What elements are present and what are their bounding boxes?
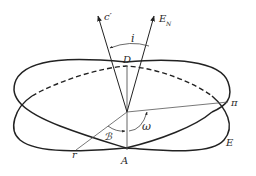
orbital-diagram: c′ E N i D A π ω ℬ r E — [0, 0, 256, 176]
reference-ellipse — [14, 66, 230, 151]
label-en-sub: N — [165, 20, 172, 27]
inclination-arc — [110, 43, 149, 48]
label-omega: ω — [142, 120, 151, 133]
orbit-ellipse — [14, 60, 230, 148]
label-inclination: i — [131, 32, 135, 45]
label-node-longitude: ℬ — [104, 131, 113, 142]
label-node-a: A — [120, 155, 128, 166]
label-pericenter: π — [230, 97, 238, 108]
label-reference-plane: E — [225, 137, 234, 148]
pericenter-line — [127, 102, 228, 112]
en-vector — [127, 16, 154, 112]
label-c-prime: c′ — [104, 11, 113, 22]
label-node-d: D — [122, 54, 131, 65]
